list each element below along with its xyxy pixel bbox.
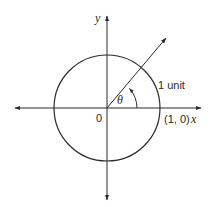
x-axis-label: x [190,112,197,126]
origin-label: 0 [96,112,102,124]
theta-label: θ [117,93,123,107]
terminal-ray [107,38,166,108]
point-label: (1, 0) [164,113,190,125]
y-axis-label: y [94,11,101,25]
radius-label: 1 unit [158,79,185,91]
theta-angle-arc [130,89,138,109]
unit-circle-diagram: y x 0 θ 1 unit (1, 0) [0,0,211,207]
